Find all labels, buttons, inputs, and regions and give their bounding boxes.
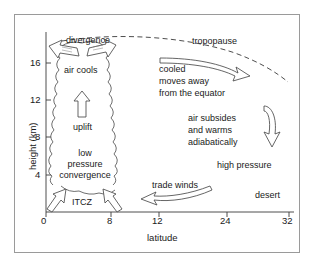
subsides-line-3: adiabatically [188, 137, 238, 147]
y-tick-8: 8 [35, 132, 40, 143]
uplift-label: uplift [73, 122, 92, 132]
air-cools-label: air cools [64, 65, 98, 75]
cooled-line-1: cooled [159, 64, 186, 74]
cooled-line-3: from the equator [159, 88, 225, 98]
y-tick-4: 4 [35, 170, 40, 181]
diagram-vector-layer: .ln{stroke:#3a3a3a;fill:none;stroke-widt… [0, 0, 314, 268]
x-tick-0: 0 [41, 216, 46, 227]
x-tick-32: 32 [282, 216, 293, 227]
x-tick-8: 8 [107, 216, 112, 227]
low-label: low [56, 148, 114, 158]
desert-label: desert [255, 190, 280, 200]
y-tick-12: 12 [30, 95, 41, 106]
y-axis-title: height (km) [27, 122, 38, 170]
cooled-line-2: moves away [159, 76, 209, 86]
uplift-arrow [74, 91, 90, 117]
x-tick-24: 24 [220, 216, 231, 227]
itcz-arrow-right [103, 189, 122, 212]
trade-winds-label: trade winds [152, 180, 198, 190]
subsides-line-2: and warms [188, 125, 232, 135]
divergence-label: divergence [66, 35, 110, 45]
x-axis-title: latitude [147, 233, 178, 244]
subsidence-arrow [264, 106, 280, 147]
itcz-arrow-left [47, 189, 66, 212]
tropopause-label: tropopause [192, 36, 237, 46]
high-pressure-label: high pressure [217, 160, 272, 170]
itcz-label: ITCZ [72, 197, 92, 207]
convergence-label: convergence [48, 170, 122, 180]
pressure-label: pressure [56, 159, 114, 169]
y-tick-16: 16 [30, 58, 41, 69]
x-tick-12: 12 [152, 216, 163, 227]
subsides-line-1: air subsides [188, 113, 236, 123]
circulation-diagram: .ln{stroke:#3a3a3a;fill:none;stroke-widt… [0, 0, 314, 268]
